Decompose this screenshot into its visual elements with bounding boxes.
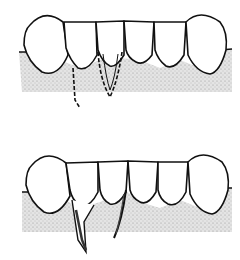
dental-figure [0,0,240,260]
top-panel [19,15,232,108]
bottom-panel [22,155,232,252]
